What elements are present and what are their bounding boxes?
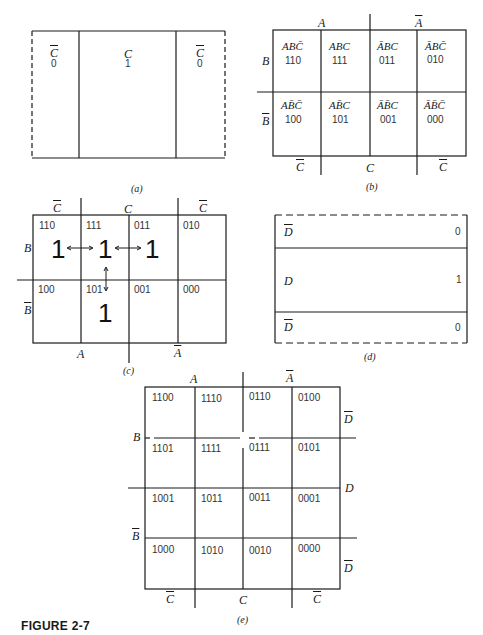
panel-c-cell-code: 110	[39, 221, 55, 231]
panel-b-cell-term: ĀBC̄	[425, 41, 446, 52]
panel-e-cell-code: 1001	[152, 494, 174, 504]
panel-d-row-label: D	[284, 275, 293, 287]
panel-a-col-value: 0	[197, 59, 203, 69]
panel-c-cell-code: 100	[38, 285, 55, 295]
panel-e-cell-code: 0001	[298, 494, 320, 504]
panel-c-top-label: C	[124, 203, 132, 215]
panel-b-cell-code: 101	[332, 115, 349, 125]
panel-c-mark-one: 1	[98, 300, 112, 326]
panel-b-lines	[257, 14, 466, 175]
panel-e-cell-code: 1110	[201, 394, 222, 404]
figure-label: FIGURE 2-7	[21, 620, 90, 632]
panel-e-cell-code: 0011	[249, 493, 271, 503]
panel-e-cell-code: 1000	[152, 545, 174, 555]
figure-line-art	[0, 0, 483, 635]
panel-b-cell-code: 111	[332, 56, 347, 66]
panel-d-row-label: D	[284, 321, 293, 333]
panel-e-cell-code: 0110	[249, 392, 271, 402]
panel-e-cell-code: 1111	[201, 444, 221, 454]
panel-c-mark-one: 1	[51, 236, 65, 262]
panel-c-cell-code: 011	[134, 221, 150, 231]
panel-b-top-label: A	[318, 17, 325, 29]
panel-c-cell-code: 111	[86, 221, 101, 231]
panel-b-side-label: B	[262, 55, 269, 67]
panel-e-right-label: D	[344, 413, 353, 425]
panel-e-bottom-label: C	[313, 593, 321, 605]
panel-e-right-label: D	[345, 482, 354, 494]
panel-d-row-value: 1	[456, 275, 462, 285]
panel-b-cell-term: ABC	[329, 41, 350, 52]
panel-e-cell-code: 1011	[201, 494, 223, 504]
panel-e-cell-code: 0010	[249, 546, 271, 556]
panel-a-col-value: 1	[125, 59, 131, 69]
panel-c-cell-code: 001	[134, 285, 151, 295]
panel-b-cell-term: AB̄C̄	[281, 100, 302, 111]
panel-c-cell-code: 101	[86, 285, 103, 295]
panel-b-cell-code: 001	[380, 115, 397, 125]
panel-c-mark-one: 1	[98, 236, 112, 262]
panel-b-top-label: A	[415, 17, 422, 29]
panel-c-side-label: B	[24, 242, 31, 254]
panel-e-cell-code: 0000	[298, 544, 320, 554]
panel-e-lines	[128, 372, 357, 608]
panel-e-right-label: D	[344, 562, 353, 574]
panel-c-cell-code: 010	[183, 221, 200, 231]
panel-c-caption: (c)	[123, 366, 134, 376]
panel-b-caption: (b)	[366, 182, 378, 192]
panel-b-bottom-label: C	[439, 161, 447, 173]
panel-d-row-value: 0	[455, 323, 461, 333]
panel-e-cell-code: 1100	[152, 393, 174, 403]
panel-b-cell-code: 011	[379, 56, 395, 66]
panel-b-cell-term: ABC̄	[282, 41, 303, 52]
panel-d-row-label: D	[284, 226, 293, 238]
panel-c-top-label: C	[53, 202, 61, 214]
panel-d-row-value: 0	[455, 227, 461, 237]
panel-e-cell-code: 1010	[201, 546, 223, 556]
panel-b-cell-code: 010	[427, 55, 444, 65]
panel-e-bottom-label: C	[239, 594, 247, 606]
panel-a-col-value: 0	[51, 59, 57, 69]
panel-e-cell-code: 0111	[249, 443, 270, 453]
panel-e-top-label: A	[286, 372, 293, 384]
panel-b-cell-term: ĀB̄C	[377, 100, 398, 111]
panel-b-cell-term: ĀBC	[377, 41, 398, 52]
panel-d-caption: (d)	[364, 352, 376, 362]
panel-b-bottom-label: C	[366, 162, 374, 174]
panel-b-cell-term: ĀB̄C̄	[424, 100, 445, 111]
panel-e-caption: (e)	[237, 615, 248, 625]
panel-b-side-label: B	[262, 115, 269, 127]
panel-b-bottom-label: C	[296, 161, 304, 173]
panel-e-bottom-label: C	[166, 593, 174, 605]
panel-b-cell-code: 000	[427, 115, 444, 125]
panel-e-cell-code: 1101	[152, 444, 174, 454]
panel-c-top-label: C	[199, 202, 207, 214]
panel-b-cell-code: 100	[285, 115, 302, 125]
panel-e-cell-code: 0101	[298, 443, 320, 453]
panel-e-top-label: A	[190, 373, 197, 385]
panel-c-cell-code: 000	[183, 285, 200, 295]
panel-a-caption: (a)	[131, 184, 143, 194]
panel-b-cell-code: 110	[285, 56, 301, 66]
panel-d-lines	[275, 215, 467, 343]
panel-b-cell-term: AB̄C	[329, 100, 350, 111]
panel-e-cell-code: 0100	[298, 393, 320, 403]
panel-c-bottom-label: A	[77, 348, 84, 360]
panel-c-side-label: B	[24, 304, 31, 316]
panel-e-left-label: B	[133, 431, 140, 443]
panel-e-left-label: B	[132, 530, 139, 542]
panel-c-bottom-label: A	[174, 347, 181, 359]
panel-c-mark-one: 1	[145, 236, 159, 262]
